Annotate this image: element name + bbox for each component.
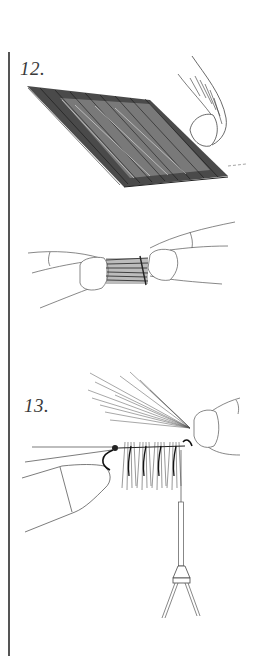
fly-on-thread-figure (0, 370, 261, 630)
fur-patch-figure (0, 40, 261, 200)
fur-patch-drawing (0, 40, 261, 200)
fly-on-thread-drawing (0, 370, 261, 630)
pinched-fur-figure (0, 220, 261, 320)
pinched-fur-drawing (0, 220, 261, 320)
illustration-page: 12. (0, 0, 261, 656)
